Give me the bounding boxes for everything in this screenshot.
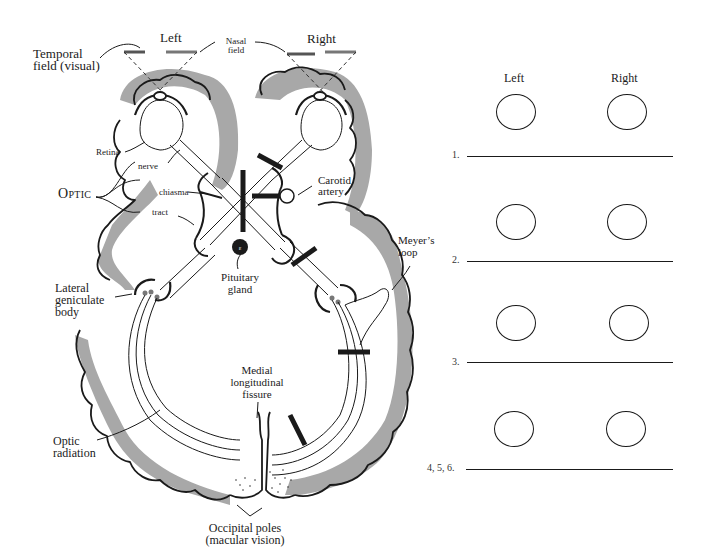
- right-field-circle[interactable]: [607, 94, 647, 130]
- visual-field-left-label: Left: [160, 32, 182, 44]
- row-number: 1.: [452, 149, 460, 160]
- answer-line[interactable]: [467, 362, 673, 363]
- right-field-circle[interactable]: [609, 305, 649, 341]
- medial-fissure-label-3: fissure: [222, 389, 292, 400]
- nasal-field-label-2: field: [224, 46, 248, 55]
- left-field-circle[interactable]: [496, 204, 536, 240]
- medial-fissure-label-2: longitudinal: [222, 377, 292, 388]
- visual-field-right-label: Right: [307, 33, 336, 45]
- right-field-circle[interactable]: [606, 411, 646, 447]
- occipital-stipple: [235, 469, 292, 493]
- carotid-artery-label-2: artery: [318, 186, 344, 197]
- pituitary-gland-label-1: Pituitary: [210, 272, 270, 283]
- meyers-loop-label-2: loop: [398, 247, 418, 258]
- pituitary-gland: ε: [232, 239, 248, 255]
- optic-chiasma-label: chiasma: [159, 188, 189, 197]
- carotid-artery: [280, 189, 294, 203]
- row-number: 3.: [452, 356, 460, 367]
- row-number: 2.: [452, 254, 460, 265]
- eyes: [135, 92, 346, 150]
- right-field-circle[interactable]: [607, 204, 647, 240]
- temporal-field-label-2: field (visual): [33, 60, 100, 72]
- optic-tract-label: tract: [152, 208, 168, 217]
- left-field-circle[interactable]: [496, 94, 536, 130]
- worksheet-header-right: Right: [611, 71, 638, 86]
- answer-line[interactable]: [467, 156, 673, 157]
- visual-pathway-diagram: ε: [0, 0, 709, 557]
- pituitary-gland-label-2: gland: [210, 284, 270, 295]
- optic-nerve-label: nerve: [138, 162, 158, 171]
- optic-label: Optic: [58, 188, 91, 200]
- left-field-circle[interactable]: [494, 411, 534, 447]
- answer-line[interactable]: [466, 469, 673, 470]
- occipital-poles-label-2: (macular vision): [190, 534, 300, 546]
- retina-label: Retina: [96, 148, 120, 157]
- medial-fissure-label-1: Medial: [222, 365, 292, 376]
- meyers-loop-label-1: Meyer’s: [398, 235, 434, 246]
- optic-radiation-label-2: radiation: [53, 447, 96, 459]
- answer-line[interactable]: [467, 261, 673, 262]
- row-number: 4, 5, 6.: [427, 462, 455, 473]
- worksheet-header-left: Left: [504, 71, 524, 86]
- left-field-circle[interactable]: [496, 305, 536, 341]
- lgb-label-3: body: [55, 306, 79, 318]
